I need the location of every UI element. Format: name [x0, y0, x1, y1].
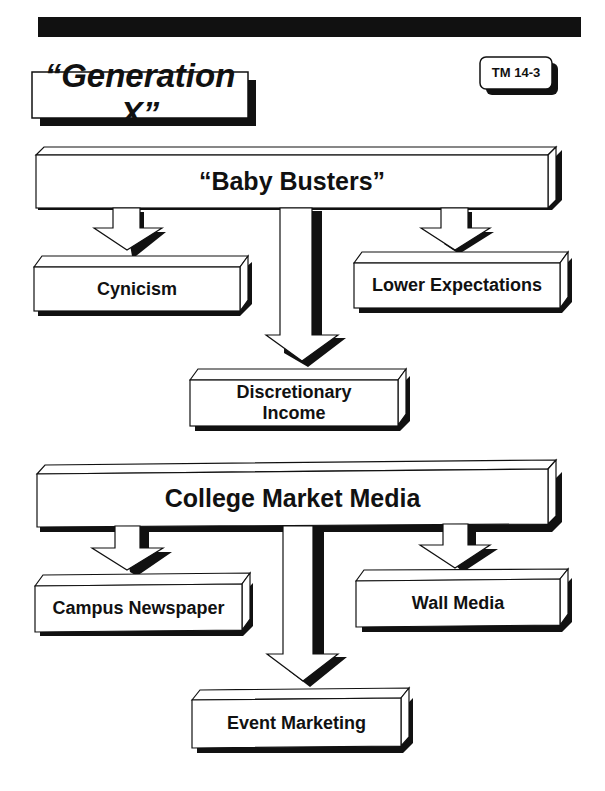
- node-cynicism: Cynicism: [34, 267, 240, 311]
- node-baby-busters: “Baby Busters”: [36, 155, 548, 208]
- slide-id-badge: TM 14-3: [480, 57, 552, 89]
- node-discretionary-income: Discretionary Income: [206, 380, 382, 426]
- node-wall-media: Wall Media: [356, 580, 560, 626]
- node-lower-expectations: Lower Expectations: [354, 263, 560, 308]
- node-event-marketing: Event Marketing: [192, 699, 401, 747]
- page-title: “Generation X”: [32, 72, 248, 118]
- node-campus-newspaper: Campus Newspaper: [35, 585, 242, 631]
- node-college-market-media: College Market Media: [37, 471, 548, 525]
- top-rule: [38, 17, 581, 37]
